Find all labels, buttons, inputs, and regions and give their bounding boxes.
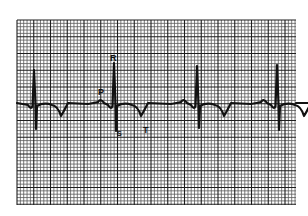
label-p-wave: P [98,88,104,97]
label-s-wave: S [117,130,122,137]
ecg-strip [0,0,308,216]
label-r-wave: R [110,54,117,63]
label-t-wave: T [143,126,149,135]
